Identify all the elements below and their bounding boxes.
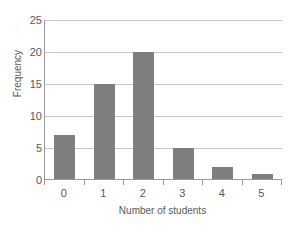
bar[interactable] <box>173 148 194 180</box>
bar-chart: Frequency 0510152025 012345 Number of st… <box>0 0 290 226</box>
x-axis-tick-label: 4 <box>202 185 242 201</box>
y-axis-tick-label: 10 <box>18 111 42 122</box>
y-axis-tick-label: 5 <box>18 143 42 154</box>
chart-title <box>44 0 281 12</box>
bar[interactable] <box>133 52 154 180</box>
y-axis-tick-label: 20 <box>18 47 42 58</box>
bar-slot <box>85 20 125 180</box>
x-axis-tick-labels: 012345 <box>44 185 281 201</box>
bar[interactable] <box>54 135 75 180</box>
bar-series <box>45 20 282 180</box>
y-axis-tick-labels: 0510152025 <box>18 20 42 180</box>
x-axis-tick-label: 1 <box>84 185 124 201</box>
x-axis-tick-label: 0 <box>44 185 84 201</box>
y-axis-tick-label: 15 <box>18 79 42 90</box>
bar-slot <box>124 20 164 180</box>
x-axis-tick-label: 5 <box>242 185 282 201</box>
x-axis-tick-label: 3 <box>163 185 203 201</box>
x-axis-tickmark <box>281 180 282 185</box>
plot-area <box>44 20 281 180</box>
bar[interactable] <box>94 84 115 180</box>
bar-slot <box>164 20 204 180</box>
bar-slot <box>45 20 85 180</box>
y-axis-tick-label: 25 <box>18 15 42 26</box>
bar-slot <box>243 20 283 180</box>
x-axis-tick-label: 2 <box>123 185 163 201</box>
y-axis-tick-label: 0 <box>18 175 42 186</box>
x-axis-title: Number of students <box>44 205 281 216</box>
bar-slot <box>203 20 243 180</box>
